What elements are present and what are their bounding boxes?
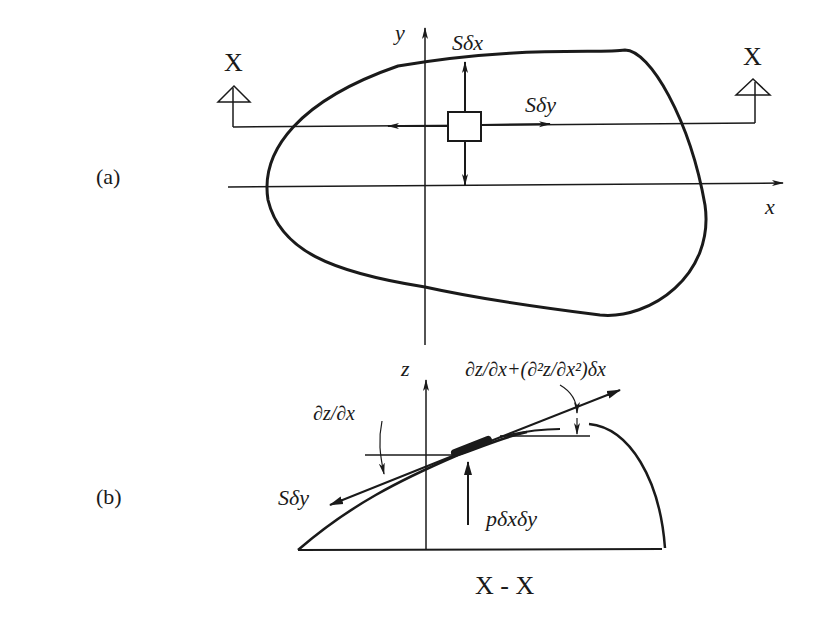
section-title: X - X bbox=[475, 573, 534, 599]
slope-left-label: ∂z/∂x bbox=[313, 403, 355, 423]
section-marker-left-label: X bbox=[224, 50, 243, 76]
section-baseline bbox=[298, 549, 662, 550]
slope-right-label: ∂z/∂x+(∂²z/∂x²)δx bbox=[465, 359, 606, 379]
force-s-delta-x-label: Sδx bbox=[452, 32, 483, 54]
membrane-boundary bbox=[267, 50, 706, 315]
x-axis-label: x bbox=[765, 196, 775, 218]
y-axis-label: y bbox=[395, 22, 405, 44]
panel-a-drawing bbox=[218, 28, 783, 345]
tangent-line-left bbox=[330, 455, 455, 505]
section-right-marker-icon bbox=[736, 79, 770, 95]
membrane-element-square bbox=[448, 112, 481, 141]
force-left-s-delta-y-label: Sδy bbox=[278, 487, 309, 509]
membrane-profile-right bbox=[589, 424, 665, 548]
force-s-delta-y-label: Sδy bbox=[525, 94, 556, 116]
panel-a-label: (a) bbox=[96, 166, 120, 188]
diagram-drawing bbox=[0, 0, 825, 621]
membrane-profile-left bbox=[298, 432, 527, 550]
slope-arc-left bbox=[380, 421, 384, 474]
pressure-force-label: pδxδy bbox=[486, 508, 537, 530]
z-axis-label: z bbox=[401, 358, 410, 380]
force-right-arrow bbox=[481, 124, 550, 125]
section-left-marker-icon bbox=[218, 86, 250, 102]
membrane-diagram: (a) X X y x Sδx Sδy (b) z ∂z/∂x ∂z/∂x+(∂… bbox=[0, 0, 825, 621]
section-marker-right-label: X bbox=[743, 44, 762, 70]
panel-b-label: (b) bbox=[96, 486, 122, 508]
